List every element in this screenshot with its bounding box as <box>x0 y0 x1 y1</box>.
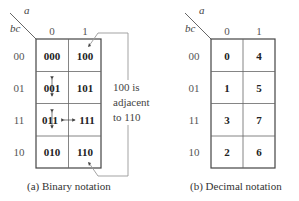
row-header: 01 <box>8 82 30 94</box>
kmap-cell: 1 <box>211 72 243 104</box>
row-header: 00 <box>8 50 30 62</box>
row-header: 10 <box>183 146 205 158</box>
annotation-line: 100 is <box>113 80 150 95</box>
kmap-cell: 2 <box>211 136 243 168</box>
col-header: 1 <box>77 25 93 37</box>
row-header: 11 <box>183 114 205 126</box>
kmap-cell: 0 <box>211 40 243 72</box>
row-variable-label: bc <box>10 22 20 34</box>
col-header: 0 <box>219 25 235 37</box>
col-header: 0 <box>44 25 60 37</box>
kmap-cell: 111 <box>71 104 103 136</box>
caption-decimal: (b) Decimal notation <box>190 180 282 192</box>
kmap-cell: 000 <box>36 40 68 72</box>
col-variable-label: a <box>199 4 205 16</box>
kmap-cell: 5 <box>243 72 275 104</box>
row-variable-label: bc <box>185 22 195 34</box>
row-header: 11 <box>8 114 30 126</box>
kmap-cell: 101 <box>69 72 101 104</box>
kmap-cell: 011 <box>34 104 66 136</box>
kmap-cell: 110 <box>69 136 101 168</box>
annotation-line: adjacent <box>113 95 150 110</box>
adjacency-annotation: 100 is adjacent to 110 <box>113 80 150 125</box>
caption-binary: (a) Binary notation <box>27 180 111 192</box>
kmap-cell: 4 <box>243 40 275 72</box>
col-header: 1 <box>251 25 267 37</box>
kmap-cell: 001 <box>36 72 68 104</box>
kmap-cell: 6 <box>243 136 275 168</box>
annotation-line: to 110 <box>113 110 150 125</box>
kmap-cell: 3 <box>211 104 243 136</box>
row-header: 10 <box>8 146 30 158</box>
kmap-cell: 100 <box>69 40 101 72</box>
col-variable-label: a <box>24 4 30 16</box>
kmap-cell: 7 <box>243 104 275 136</box>
row-header: 01 <box>183 82 205 94</box>
row-header: 00 <box>183 50 205 62</box>
kmap-cell: 010 <box>36 136 68 168</box>
